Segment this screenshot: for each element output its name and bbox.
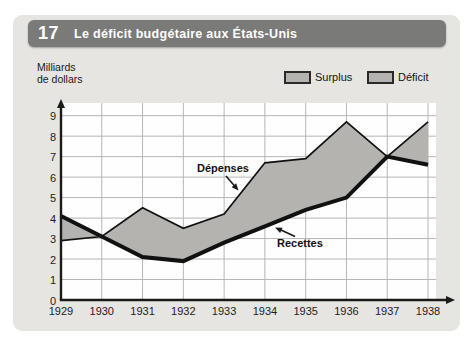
- y-tick-label: 1: [36, 274, 56, 286]
- x-tick-label: 1931: [127, 305, 159, 317]
- x-tick-label: 1933: [208, 305, 240, 317]
- y-tick-label: 2: [36, 254, 56, 266]
- x-tick-label: 1929: [45, 305, 77, 317]
- y-tick-label: 7: [36, 151, 56, 163]
- x-tick-label: 1930: [86, 305, 118, 317]
- x-tick-label: 1934: [249, 305, 281, 317]
- y-tick-label: 4: [36, 213, 56, 225]
- annotation-recettes: Recettes: [277, 237, 323, 249]
- y-tick-label: 5: [36, 192, 56, 204]
- y-tick-label: 6: [36, 172, 56, 184]
- x-tick-label: 1932: [167, 305, 199, 317]
- y-tick-label: 3: [36, 233, 56, 245]
- x-tick-label: 1937: [371, 305, 403, 317]
- annotation-depenses: Dépenses: [197, 162, 249, 174]
- y-tick-label: 0: [36, 295, 56, 307]
- x-tick-label: 1936: [330, 305, 362, 317]
- x-tick-label: 1935: [290, 305, 322, 317]
- y-tick-label: 9: [36, 110, 56, 122]
- x-tick-label: 1938: [412, 305, 444, 317]
- y-tick-label: 8: [36, 131, 56, 143]
